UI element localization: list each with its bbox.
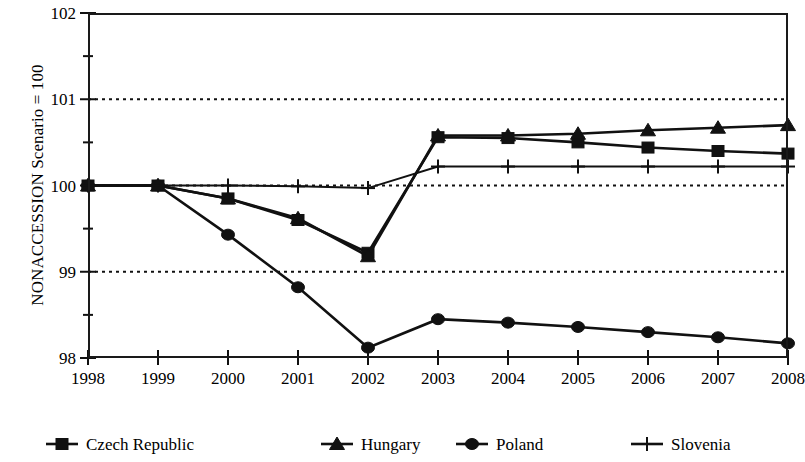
- marker-poland-2007: [712, 332, 725, 343]
- plot-area: [88, 13, 788, 358]
- x-tick-label-1998: 1998: [53, 370, 123, 387]
- series-hungary: [81, 118, 796, 262]
- series-czech-republic: [82, 132, 794, 259]
- x-tick-label-2003: 2003: [403, 370, 473, 387]
- marker-czech-republic-2008: [782, 148, 794, 159]
- marker-czech-republic-2007: [712, 146, 724, 157]
- marker-poland-2005: [572, 321, 585, 332]
- series-line-0: [88, 137, 788, 253]
- legend-marker-plus-icon: [630, 436, 664, 452]
- x-tick-label-2000: 2000: [193, 370, 263, 387]
- legend-marker-circle-icon: [455, 436, 489, 452]
- chart-legend: Czech RepublicHungaryPolandSlovenia: [0, 432, 805, 462]
- legend-entry-czech-republic[interactable]: Czech Republic: [45, 432, 194, 456]
- x-tick-label-2001: 2001: [263, 370, 333, 387]
- legend-entry-poland[interactable]: Poland: [455, 432, 543, 456]
- marker-poland-2003: [432, 314, 445, 325]
- marker-poland-2008: [782, 338, 795, 349]
- legend-marker-triangle-icon: [320, 436, 354, 452]
- x-tick-label-2008: 2008: [753, 370, 805, 387]
- series-poland: [82, 180, 795, 353]
- legend-glyph: [56, 439, 68, 450]
- x-tick-label-2006: 2006: [613, 370, 683, 387]
- x-tick-label-2007: 2007: [683, 370, 753, 387]
- legend-entry-hungary[interactable]: Hungary: [320, 432, 420, 456]
- chart-figure: NONACCESSION Scenario = 100 989910010110…: [0, 0, 805, 462]
- chart-canvas: [88, 13, 788, 358]
- x-tick-label-2004: 2004: [473, 370, 543, 387]
- legend-marker-square-icon: [45, 436, 79, 452]
- x-tick-label-2005: 2005: [543, 370, 613, 387]
- series-line-1: [88, 125, 788, 256]
- marker-poland-2002: [362, 342, 375, 353]
- marker-poland-2000: [222, 229, 235, 240]
- legend-glyph: [466, 439, 479, 450]
- legend-label: Poland: [496, 436, 543, 453]
- legend-label: Czech Republic: [86, 436, 194, 453]
- legend-entry-slovenia[interactable]: Slovenia: [630, 432, 731, 456]
- legend-label: Hungary: [361, 436, 420, 453]
- marker-czech-republic-2006: [642, 142, 654, 153]
- x-tick-label-2002: 2002: [333, 370, 403, 387]
- marker-poland-2006: [642, 327, 655, 338]
- x-tick-label-1999: 1999: [123, 370, 193, 387]
- legend-label: Slovenia: [671, 436, 731, 453]
- marker-poland-2004: [502, 317, 515, 328]
- marker-poland-2001: [292, 282, 305, 293]
